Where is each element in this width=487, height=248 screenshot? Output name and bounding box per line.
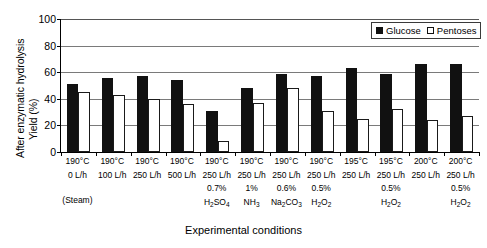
bar-pentoses — [148, 99, 160, 152]
bar-pentoses — [253, 103, 265, 152]
bar-pentoses — [392, 109, 404, 152]
y-tick-label-20: 20 — [30, 120, 56, 130]
bar-pentoses — [287, 88, 299, 152]
y-axis-title: After enzymatic hydrolysis Yield (%) — [0, 0, 34, 165]
bar-pentoses — [462, 116, 474, 152]
bar-glucose — [171, 80, 183, 152]
bar-glucose — [67, 84, 79, 152]
bar-pentoses — [183, 104, 195, 152]
bar-group — [270, 19, 305, 152]
legend-label-glucose: Glucose — [386, 25, 421, 36]
bar-group — [61, 19, 96, 152]
bar-group — [340, 19, 375, 152]
bar-pentoses — [322, 111, 334, 152]
y-tick-label-0: 0 — [30, 147, 56, 157]
bar-glucose — [276, 74, 288, 152]
bar-glucose — [380, 74, 392, 152]
bar-glucose — [311, 76, 323, 152]
bar-glucose — [137, 76, 149, 152]
y-tick-label-40: 40 — [30, 94, 56, 104]
bar-glucose — [241, 88, 253, 152]
x-label-temperature: 200°C — [439, 155, 482, 169]
y-axis-title-line-1: After enzymatic hydrolysis — [14, 39, 26, 158]
bar-pentoses — [78, 92, 90, 152]
y-tick-label-80: 80 — [30, 41, 56, 51]
bar-glucose — [206, 111, 218, 152]
x-label-chemical: H2O2 — [439, 196, 482, 210]
bar-group — [305, 19, 340, 152]
x-axis-steam-note: (Steam) — [56, 195, 99, 205]
y-tick-label-60: 60 — [30, 67, 56, 77]
bar-pentoses — [357, 119, 369, 152]
x-label-concentration: 0.5% — [439, 182, 482, 196]
x-axis-category-labels: 190°C0 L/h 190°C100 L/h 190°C250 L/h 190… — [60, 155, 478, 223]
filled-square-icon — [376, 27, 383, 34]
bar-group — [235, 19, 270, 152]
bar-glucose — [450, 64, 462, 152]
chart-legend: Glucose Pentoses — [371, 22, 481, 39]
legend-label-pentoses: Pentoses — [437, 25, 477, 36]
bar-pentoses — [427, 120, 439, 152]
bar-glucose — [102, 78, 114, 152]
legend-item-glucose: Glucose — [376, 25, 421, 36]
x-axis-title: Experimental conditions — [0, 224, 487, 236]
x-label-flow: 250 L/h — [439, 169, 482, 183]
y-tick-label-100: 100 — [30, 14, 56, 24]
x-category-label: 200°C250 L/h0.5%H2O2 — [439, 155, 482, 209]
bar-pentoses — [113, 95, 125, 152]
bar-group — [200, 19, 235, 152]
bar-pentoses — [218, 141, 230, 152]
bar-group — [96, 19, 131, 152]
bar-glucose — [346, 68, 358, 152]
legend-item-pentoses: Pentoses — [427, 25, 477, 36]
bar-glucose — [415, 64, 427, 152]
chart-figure: After enzymatic hydrolysis Yield (%) 100… — [0, 0, 487, 248]
bar-group — [166, 19, 201, 152]
y-axis-tick-labels: 100 80 60 40 20 0 — [30, 0, 56, 165]
plot-area — [60, 19, 479, 153]
bar-group — [131, 19, 166, 152]
hollow-square-icon — [427, 27, 434, 34]
